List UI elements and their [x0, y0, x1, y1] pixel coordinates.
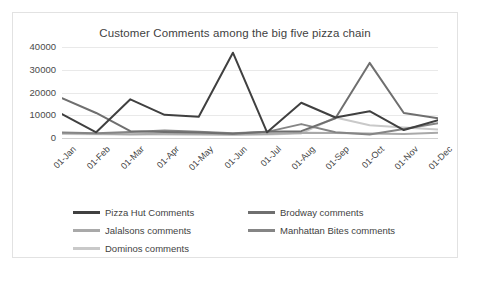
x-axis-labels: 01-Jan01-Feb01-Mar01-Apr01-May01-Jun01-J… — [62, 140, 438, 186]
legend-label: Jalalsons comments — [105, 225, 191, 236]
y-axis-tick-label: 10000 — [0, 109, 56, 120]
legend-row: Jalalsons commentsManhattan Bites commen… — [73, 221, 453, 239]
legend-item[interactable]: Dominos comments — [73, 243, 248, 254]
legend-color-swatch — [73, 229, 100, 232]
legend-item[interactable]: Pizza Hut Comments — [73, 207, 248, 218]
chart-legend: Pizza Hut CommentsBrodway commentsJalals… — [73, 203, 453, 257]
legend-label: Dominos comments — [105, 243, 189, 254]
y-axis-tick-label: 20000 — [0, 87, 56, 98]
y-axis-tick-label: 0 — [0, 132, 56, 143]
legend-item[interactable]: Manhattan Bites comments — [248, 225, 395, 236]
x-axis-line — [62, 138, 438, 139]
series-line — [62, 53, 438, 133]
y-axis-tick-label: 40000 — [0, 41, 56, 52]
series-line — [62, 63, 438, 134]
series-lines — [62, 47, 438, 138]
legend-label: Manhattan Bites comments — [280, 225, 395, 236]
legend-item[interactable]: Brodway comments — [248, 207, 363, 218]
legend-label: Pizza Hut Comments — [105, 207, 194, 218]
legend-color-swatch — [73, 247, 100, 250]
legend-item[interactable]: Jalalsons comments — [73, 225, 248, 236]
legend-row: Dominos comments — [73, 239, 453, 257]
legend-row: Pizza Hut CommentsBrodway comments — [73, 203, 453, 221]
legend-color-swatch — [248, 211, 275, 214]
legend-label: Brodway comments — [280, 207, 363, 218]
y-axis-tick-label: 30000 — [0, 64, 56, 75]
figure-caption — [0, 268, 479, 281]
legend-color-swatch — [73, 211, 100, 214]
legend-color-swatch — [248, 229, 275, 232]
chart-container: Customer Comments among the big five piz… — [12, 12, 458, 258]
